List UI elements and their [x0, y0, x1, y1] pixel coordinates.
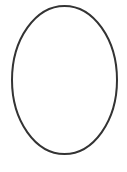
ellipse-outline: [12, 6, 117, 154]
diagram-canvas: [0, 0, 127, 172]
